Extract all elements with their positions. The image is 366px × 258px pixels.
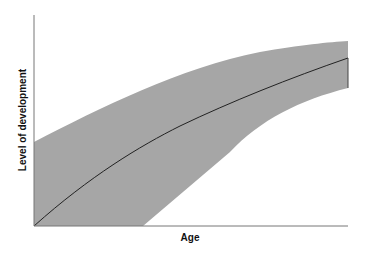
y-axis-label: Level of development [17, 69, 28, 171]
development-band-chart [0, 0, 366, 258]
x-axis-label: Age [181, 232, 200, 243]
variability-band [34, 41, 348, 226]
